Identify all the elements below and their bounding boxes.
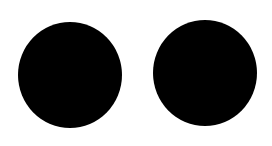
right-black-circle [153,20,257,126]
canvas [0,0,272,146]
left-black-circle [18,22,122,128]
